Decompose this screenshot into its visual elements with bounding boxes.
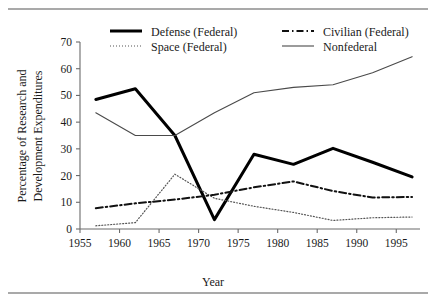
x-tick-label: 1965 bbox=[148, 237, 171, 249]
series-line-2 bbox=[96, 181, 412, 208]
y-axis-title: Percentage of Research and Development E… bbox=[15, 70, 45, 203]
y-axis-title-line1: Percentage of Research and bbox=[15, 70, 29, 203]
y-tick-label: 30 bbox=[61, 143, 73, 155]
legend-item[interactable]: Space (Federal) bbox=[110, 40, 227, 54]
legend-label-2: Civilian (Federal) bbox=[323, 25, 409, 39]
y-tick-label: 20 bbox=[61, 170, 73, 182]
x-tick-label: 1980 bbox=[266, 237, 289, 249]
chart-legend: Defense (Federal)Space (Federal)Civilian… bbox=[110, 25, 409, 54]
axes-group bbox=[80, 42, 420, 229]
y-tick-label: 70 bbox=[61, 36, 73, 48]
y-tick-label: 0 bbox=[66, 223, 72, 235]
legend-label-3: Nonfederal bbox=[323, 40, 378, 54]
y-tick-label: 10 bbox=[61, 196, 73, 208]
series-line-1 bbox=[96, 174, 412, 226]
legend-label-1: Space (Federal) bbox=[151, 40, 227, 54]
figure-container: 010203040506070 195519601965197019751980… bbox=[0, 0, 436, 302]
legend-item[interactable]: Nonfederal bbox=[282, 40, 378, 54]
y-tick-label: 50 bbox=[61, 89, 73, 101]
line-chart: 010203040506070 195519601965197019751980… bbox=[0, 0, 436, 302]
x-tick-label: 1970 bbox=[187, 237, 210, 249]
series-group bbox=[96, 57, 412, 226]
x-tick-label: 1960 bbox=[108, 237, 131, 249]
x-tick-label: 1995 bbox=[385, 237, 408, 249]
series-line-0 bbox=[96, 89, 412, 220]
y-axis-ticks: 010203040506070 bbox=[61, 36, 81, 235]
x-tick-label: 1990 bbox=[345, 237, 368, 249]
y-tick-label: 60 bbox=[61, 63, 73, 75]
x-tick-label: 1955 bbox=[69, 237, 92, 249]
legend-item[interactable]: Defense (Federal) bbox=[110, 25, 237, 39]
x-axis-title: Year bbox=[202, 275, 224, 289]
legend-label-0: Defense (Federal) bbox=[151, 25, 237, 39]
x-axis-ticks: 195519601965197019751980198519901995 bbox=[69, 229, 409, 249]
legend-item[interactable]: Civilian (Federal) bbox=[282, 25, 409, 39]
x-tick-label: 1975 bbox=[227, 237, 250, 249]
x-tick-label: 1985 bbox=[306, 237, 329, 249]
y-tick-label: 40 bbox=[61, 116, 73, 128]
y-axis-title-line2: Development Expenditures bbox=[31, 70, 45, 201]
